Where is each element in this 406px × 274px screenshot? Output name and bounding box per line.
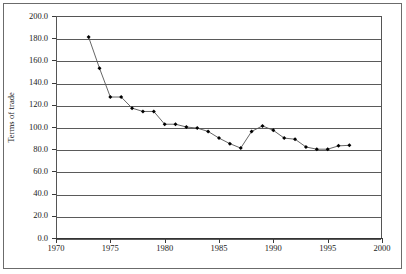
y-axis-tick-label: 80.0	[18, 145, 48, 154]
gridline	[57, 61, 381, 62]
gridline	[57, 217, 381, 218]
x-axis-tick-label: 1980	[145, 243, 185, 253]
y-axis-tick-label: 0.0	[18, 234, 48, 243]
x-axis-tick-label: 1970	[36, 243, 76, 253]
y-axis-tick-label: 160.0	[18, 56, 48, 65]
y-axis-tick-label: 120.0	[18, 100, 48, 109]
y-axis-tick-label: 200.0	[18, 12, 48, 21]
x-axis-tick-label: 1990	[253, 243, 293, 253]
gridline	[57, 84, 381, 85]
gridline	[57, 39, 381, 40]
x-axis-tick-label: 1985	[199, 243, 239, 253]
plot-area	[56, 16, 382, 238]
y-axis-tick-label: 20.0	[18, 211, 48, 220]
chart-screenshot: Terms of trade 0.020.040.060.080.0100.01…	[0, 0, 406, 274]
gridline	[57, 106, 381, 107]
x-axis-tick-label: 2000	[362, 243, 402, 253]
y-axis-tick-label: 60.0	[18, 167, 48, 176]
gridline	[57, 150, 381, 151]
x-axis-tick-label: 1975	[90, 243, 130, 253]
y-axis-tick-label: 180.0	[18, 34, 48, 43]
gridline	[57, 172, 381, 173]
x-axis-tick-label: 1995	[308, 243, 348, 253]
gridline	[57, 128, 381, 129]
y-axis-tick-label: 140.0	[18, 78, 48, 87]
y-axis-tick-label: 40.0	[18, 189, 48, 198]
y-axis-tick-label: 100.0	[18, 123, 48, 132]
gridline	[57, 195, 381, 196]
